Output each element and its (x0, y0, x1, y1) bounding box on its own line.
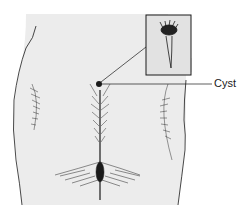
inset-box (146, 15, 191, 75)
cyst-label: Cyst (214, 77, 236, 89)
diagram-canvas: Cyst (0, 0, 249, 217)
body-illustration (0, 0, 249, 217)
